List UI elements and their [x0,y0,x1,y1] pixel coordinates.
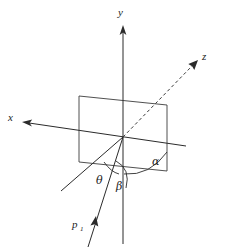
theta-angle-label: θ [96,174,103,187]
figure-canvas: y x z p 1 α θ β [0,0,234,251]
theta-projection-line-segment [61,137,123,191]
theta-projection-line [61,137,123,191]
beta-angle-label: β [115,180,122,193]
z-axis-label: z [201,50,207,62]
coordinate-diagram: y x z p 1 α θ β [0,0,234,251]
alpha-arc-path [124,152,167,174]
x-axis-line [29,123,186,146]
z-axis [123,60,198,137]
alpha-angle-label: α [152,155,160,168]
y-axis-label: y [117,6,123,18]
y-axis [120,25,127,244]
p1-vector-label: p [71,218,78,230]
x-axis-label: x [7,111,13,123]
x-axis [22,120,186,146]
p1-vector-subscript: 1 [80,225,84,233]
alpha-angle-arc [124,152,167,174]
